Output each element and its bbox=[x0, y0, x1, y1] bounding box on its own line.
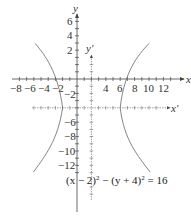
svg-text:−4: −4 bbox=[38, 82, 50, 94]
svg-text:4: 4 bbox=[67, 29, 73, 41]
x-tick-labels: −8 −6 −4 −2 4 6 8 10 12 bbox=[10, 82, 169, 94]
x-prime-axis: x′ bbox=[32, 102, 179, 114]
svg-text:−8: −8 bbox=[10, 82, 22, 94]
svg-text:−10: −10 bbox=[58, 145, 76, 157]
x-prime-axis-label: x′ bbox=[170, 102, 179, 114]
svg-text:−2: −2 bbox=[64, 88, 76, 100]
svg-text:6: 6 bbox=[67, 15, 73, 27]
hyperbola-diagram: x y x′ bbox=[0, 0, 191, 217]
svg-text:10: 10 bbox=[143, 82, 155, 94]
svg-text:12: 12 bbox=[158, 82, 169, 94]
svg-text:−12: −12 bbox=[58, 159, 75, 171]
svg-text:2: 2 bbox=[67, 44, 73, 56]
y-prime-axis-label: y′ bbox=[85, 42, 94, 54]
svg-text:−6: −6 bbox=[24, 82, 36, 94]
svg-text:8: 8 bbox=[132, 82, 138, 94]
x-axis-label: x bbox=[185, 73, 191, 85]
svg-text:6: 6 bbox=[117, 82, 123, 94]
svg-text:−8: −8 bbox=[64, 130, 76, 142]
svg-text:4: 4 bbox=[103, 82, 109, 94]
y-axis-label: y bbox=[72, 2, 78, 14]
equation-label: (x − 2)2 − (y + 4)2 = 16 bbox=[66, 174, 168, 187]
svg-text:−6: −6 bbox=[64, 116, 76, 128]
